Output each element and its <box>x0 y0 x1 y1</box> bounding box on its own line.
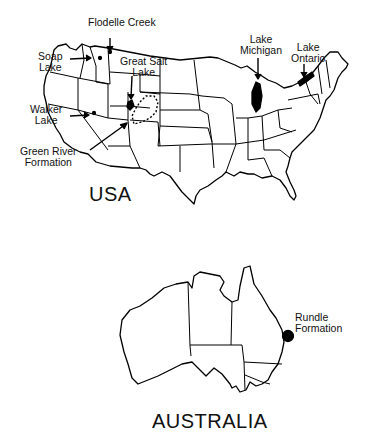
green-river-formation-outline <box>132 96 158 124</box>
rundle-formation-dot <box>283 331 294 342</box>
australia-title: AUSTRALIA <box>152 410 268 433</box>
label-lake-ontario: LakeOntario <box>291 42 325 64</box>
label-green-river-formation: Green RiverFormation <box>20 146 77 168</box>
usa-outline <box>44 44 348 204</box>
label-flodelle-creek: Flodelle Creek <box>88 17 156 28</box>
australia-state-lines <box>188 282 282 390</box>
lake-michigan-shape <box>252 82 262 112</box>
usa-title: USA <box>89 183 132 206</box>
label-great-salt-lake: Great SaltLake <box>120 56 167 78</box>
walker-lake-dot <box>93 112 96 115</box>
label-soap-lake: SoapLake <box>38 51 63 73</box>
label-rundle-formation: RundleFormation <box>295 312 342 334</box>
great-salt-lake-shape <box>127 100 134 110</box>
soap-lake-dot <box>99 57 102 60</box>
label-lake-michigan: LakeMichigan <box>240 34 282 56</box>
label-walker-lake: WalkerLake <box>30 104 62 126</box>
australia-outline <box>120 266 284 392</box>
